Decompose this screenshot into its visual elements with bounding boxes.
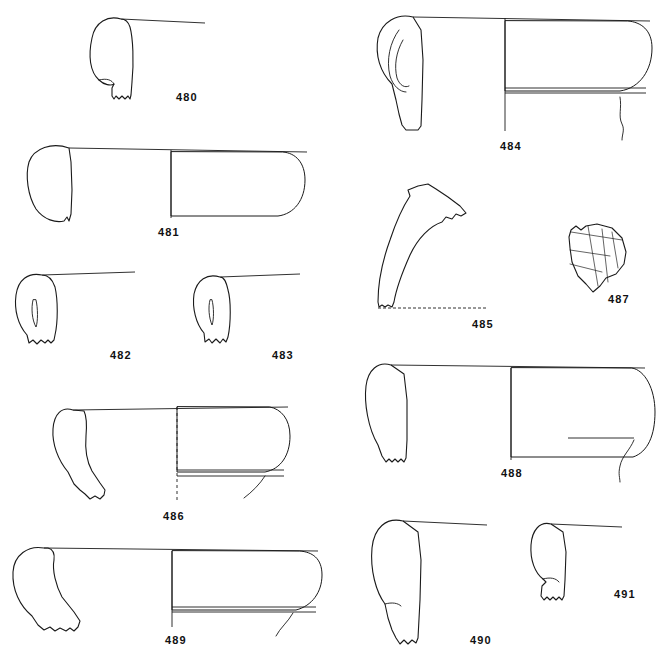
vessel-group-485	[378, 184, 487, 308]
catalogue-label-482: 482	[110, 349, 132, 361]
catalogue-label-490: 490	[470, 634, 492, 646]
vessel-group-488	[366, 364, 656, 482]
decoration-line-487-0	[571, 232, 622, 240]
rim-line-490	[403, 521, 487, 525]
profile-outline-489	[13, 547, 80, 631]
vessel-group-480	[90, 18, 205, 99]
rim-line-483	[220, 274, 300, 277]
handle-perforation-482	[32, 300, 38, 327]
catalogue-label-481: 481	[158, 226, 180, 238]
catalogue-label-480: 480	[176, 91, 198, 103]
catalogue-label-487: 487	[608, 293, 630, 305]
section-outline-481	[171, 152, 305, 216]
profile-outline-482	[15, 274, 57, 344]
profile-outline-484	[377, 16, 423, 130]
vessel-group-491	[531, 523, 622, 600]
decoration-line-487-1	[570, 250, 610, 256]
profile-outline-491	[531, 523, 566, 600]
profile-outline-486	[53, 409, 105, 499]
rim-line-484	[413, 17, 650, 21]
section-outline-488	[511, 368, 655, 457]
handle-loop-inner-484	[396, 40, 409, 87]
vessel-group-490	[372, 520, 487, 644]
decoration-line-487-5	[612, 232, 618, 268]
catalogue-label-491: 491	[614, 588, 636, 600]
vessel-group-483	[193, 274, 300, 343]
catalogue-label-488: 488	[501, 467, 523, 479]
profile-outline-480	[90, 18, 133, 99]
pottery-profile-plate: 480481482483484485486487488489490491	[0, 0, 661, 657]
vessel-group-489	[13, 547, 322, 636]
section-base-curve-488	[619, 440, 634, 482]
profile-outline-481	[27, 146, 72, 222]
catalogue-label-483: 483	[272, 349, 294, 361]
section-outline-489	[172, 551, 322, 610]
vessel-group-482	[15, 272, 135, 344]
profile-waist-line-490	[385, 603, 401, 606]
profile-outline-490	[372, 520, 421, 644]
catalogue-label-484: 484	[500, 140, 522, 152]
section-base-curve-484	[620, 97, 623, 140]
handle-perforation-483	[209, 300, 214, 325]
rim-line-482	[42, 272, 135, 275]
vessel-group-486	[53, 407, 290, 503]
profile-outline-485	[378, 184, 466, 307]
decoration-line-487-3	[588, 226, 598, 286]
vessel-group-481	[27, 146, 307, 222]
profile-drawing-canvas	[0, 0, 661, 657]
profile-outline-483	[193, 276, 230, 343]
rim-line-480	[121, 19, 205, 23]
rim-line-481	[69, 148, 307, 152]
catalogue-label-485: 485	[472, 318, 494, 330]
catalogue-label-486: 486	[163, 510, 185, 522]
vessel-group-487	[569, 224, 626, 292]
section-base-curve-489	[276, 613, 293, 636]
section-outline-484	[505, 21, 652, 91]
profile-outline-488	[366, 364, 408, 462]
section-base-curve-486	[244, 476, 265, 498]
rim-line-491	[551, 524, 622, 527]
vessel-group-484	[377, 16, 652, 140]
section-outline-486	[177, 407, 290, 472]
catalogue-label-489: 489	[165, 634, 187, 646]
